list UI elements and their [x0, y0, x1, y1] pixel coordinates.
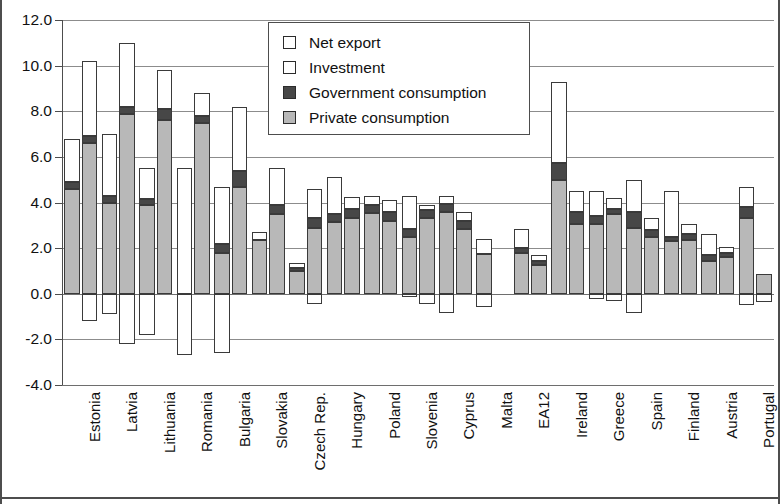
legend-label-investment: Investment — [309, 60, 385, 76]
segment-investment — [102, 134, 118, 196]
bar-stack — [701, 20, 717, 385]
segment-net-export-negative — [419, 294, 435, 304]
segment-investment — [402, 196, 418, 229]
segment-net-export-negative — [307, 294, 323, 304]
y-axis-tick — [55, 111, 62, 112]
segment-government-consumption — [402, 229, 418, 237]
segment-private-consumption — [626, 228, 642, 294]
x-axis-category-label: Finland — [686, 392, 701, 441]
segment-private-consumption — [681, 240, 697, 294]
bar-stack — [531, 20, 547, 385]
segment-government-consumption — [157, 109, 173, 120]
x-axis-line — [62, 385, 774, 386]
y-axis-tick — [55, 66, 62, 67]
segment-private-consumption — [739, 218, 755, 293]
segment-private-consumption — [514, 253, 530, 294]
legend-swatch-private-consumption — [283, 111, 296, 124]
segment-investment — [214, 187, 230, 244]
segment-investment — [252, 232, 268, 240]
x-axis-category-label: Estonia — [87, 392, 102, 442]
segment-investment — [139, 168, 155, 199]
bar-stack — [232, 20, 248, 385]
segment-government-consumption — [102, 196, 118, 203]
segment-private-consumption — [419, 218, 435, 293]
segment-private-consumption — [701, 261, 717, 294]
segment-investment — [382, 200, 398, 211]
segment-private-consumption — [756, 274, 772, 293]
segment-private-consumption — [589, 224, 605, 294]
y-axis-tick — [55, 20, 62, 21]
bar-stack — [64, 20, 80, 385]
segment-government-consumption — [289, 268, 305, 271]
segment-private-consumption — [214, 253, 230, 294]
segment-government-consumption — [64, 182, 80, 189]
segment-private-consumption — [569, 224, 585, 294]
segment-net-export-negative — [476, 294, 492, 308]
x-axis-category-label: Spain — [649, 392, 664, 430]
x-axis-category-label: Ireland — [574, 392, 589, 438]
segment-investment — [194, 93, 210, 116]
segment-net-export-negative — [139, 294, 155, 335]
segment-private-consumption — [476, 254, 492, 294]
y-axis-tick-label: 12.0 — [0, 12, 52, 28]
segment-private-consumption — [82, 143, 98, 294]
segment-investment — [82, 61, 98, 136]
segment-net-export-negative — [102, 294, 118, 315]
segment-private-consumption — [382, 221, 398, 294]
x-axis-category-label: Latvia — [124, 392, 139, 432]
chart-root: 12.010.08.06.04.02.00.0-2.0-4.0 EstoniaL… — [0, 0, 780, 504]
chart-legend: Net export Investment Government consump… — [268, 22, 530, 135]
bar-stack — [606, 20, 622, 385]
legend-label-private-consumption: Private consumption — [309, 110, 449, 126]
segment-government-consumption — [327, 214, 343, 222]
segment-government-consumption — [232, 171, 248, 187]
segment-government-consumption — [644, 230, 660, 237]
bar-stack — [569, 20, 585, 385]
segment-private-consumption — [606, 214, 622, 294]
x-axis-category-label: Greece — [611, 392, 626, 441]
segment-investment — [327, 177, 343, 214]
segment-government-consumption — [139, 199, 155, 205]
segment-private-consumption — [232, 187, 248, 294]
segment-private-consumption — [252, 240, 268, 294]
segment-investment — [569, 191, 585, 212]
segment-private-consumption — [119, 114, 135, 294]
segment-investment — [269, 168, 285, 205]
bar-stack — [626, 20, 642, 385]
segment-private-consumption — [289, 271, 305, 294]
segment-net-export-negative — [756, 294, 772, 302]
bar-stack — [551, 20, 567, 385]
y-axis-tick — [55, 157, 62, 158]
segment-investment — [364, 196, 380, 205]
bar-stack — [681, 20, 697, 385]
segment-investment — [681, 224, 697, 234]
y-axis-tick-label: -2.0 — [0, 331, 52, 347]
segment-government-consumption — [194, 116, 210, 123]
bar-stack — [589, 20, 605, 385]
segment-government-consumption — [739, 207, 755, 218]
segment-government-consumption — [719, 253, 735, 258]
segment-government-consumption — [439, 204, 455, 212]
y-axis-tick-label: 10.0 — [0, 58, 52, 74]
x-axis-category-label: Romania — [199, 392, 214, 452]
x-axis-category-label: EA12 — [536, 392, 551, 429]
bar-stack — [664, 20, 680, 385]
segment-private-consumption — [364, 213, 380, 294]
segment-net-export-negative — [402, 294, 418, 297]
bar-stack — [82, 20, 98, 385]
x-axis-category-label: Slovakia — [274, 392, 289, 449]
legend-swatch-government-consumption — [283, 86, 296, 99]
legend-item: Net export — [283, 30, 529, 55]
bar-stack — [157, 20, 173, 385]
segment-net-export-negative — [177, 294, 193, 356]
y-axis-tick — [55, 248, 62, 249]
legend-label-government-consumption: Government consumption — [309, 85, 486, 101]
segment-private-consumption — [719, 257, 735, 294]
x-axis-category-label: Poland — [387, 392, 402, 439]
bar-stack — [119, 20, 135, 385]
segment-government-consumption — [701, 255, 717, 261]
bar-stack — [252, 20, 268, 385]
segment-investment — [531, 255, 547, 261]
segment-government-consumption — [531, 261, 547, 266]
segment-government-consumption — [214, 244, 230, 253]
